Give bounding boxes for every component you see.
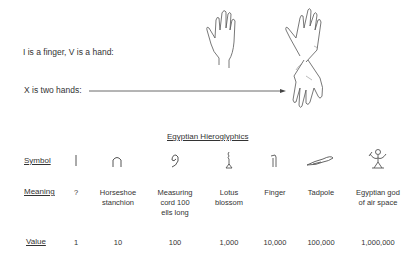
stroke-icon (74, 155, 78, 167)
lotus-icon (224, 151, 234, 169)
value-row-label: Value (26, 237, 46, 246)
meaning-1: ? (70, 188, 82, 198)
coil-rope-icon (169, 154, 181, 168)
horseshoe-icon (111, 155, 123, 167)
value-100000: 100,000 (298, 238, 344, 248)
meaning-100: Measuring cord 100 ells long (147, 188, 203, 218)
meaning-100000: Tadpole (298, 188, 344, 198)
value-1000000: 1,000,000 (348, 238, 408, 248)
value-1000: 1,000 (204, 238, 254, 248)
meaning-row-label: Meaning (24, 187, 55, 196)
tadpole-icon (305, 155, 335, 167)
value-1: 1 (70, 238, 82, 248)
meaning-1000000: Egyptian god of air space (348, 188, 408, 208)
value-10000: 10,000 (255, 238, 295, 248)
meaning-1000: Lotus blossom (204, 188, 254, 208)
value-100: 100 (147, 238, 203, 248)
meaning-10000: Finger (255, 188, 295, 198)
finger-icon (269, 154, 279, 168)
meaning-10: Horseshoe stanchion (90, 188, 146, 208)
god-icon (366, 148, 390, 170)
table-title: Egyptian Hieroglyphics (167, 132, 248, 141)
value-10: 10 (90, 238, 146, 248)
two-hands-icon (284, 6, 329, 111)
hand-icon (205, 8, 245, 73)
symbol-row-label: Symbol (24, 156, 51, 165)
